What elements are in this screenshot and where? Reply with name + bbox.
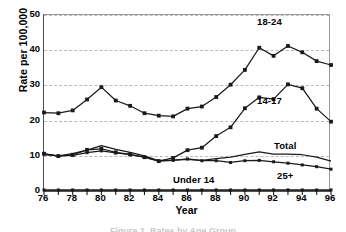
series-marker: [100, 85, 104, 89]
series-marker: [43, 153, 46, 156]
x-axis-tick-92: 92: [267, 192, 278, 203]
series-marker: [243, 106, 247, 110]
series-marker: [229, 188, 232, 191]
series-marker: [243, 188, 246, 191]
series-marker: [301, 163, 304, 166]
series-label-18-24: 18-24: [257, 16, 282, 27]
x-axis-tick-94: 94: [296, 192, 307, 203]
series-marker: [214, 95, 218, 99]
series-marker: [86, 151, 89, 154]
series-marker: [229, 161, 232, 164]
series-marker: [200, 188, 203, 191]
series-marker: [200, 105, 204, 109]
series-label-total: Total: [274, 140, 297, 151]
series-marker: [272, 54, 276, 58]
series-marker: [57, 188, 60, 191]
series-line: [44, 46, 331, 116]
series-canvas: [44, 15, 331, 191]
series-marker: [300, 50, 304, 54]
series-marker: [172, 188, 175, 191]
series-marker: [330, 188, 333, 191]
series-marker: [71, 154, 74, 157]
chart-figure: Rate per 100,000 01020304050 76788082848…: [0, 0, 346, 232]
y-axis-tick-0: 0: [18, 185, 40, 195]
series-marker: [200, 146, 204, 150]
series-marker: [143, 188, 146, 191]
series-marker: [300, 86, 304, 90]
y-axis-tick-50: 50: [18, 9, 40, 19]
y-axis-tick-labels: 01020304050: [16, 0, 40, 232]
series-under-14: [43, 188, 333, 191]
series-marker: [315, 165, 318, 168]
series-marker: [229, 83, 233, 87]
series-marker: [86, 188, 89, 191]
series-marker: [315, 59, 319, 63]
x-axis-tick-88: 88: [210, 192, 221, 203]
series-label-14-17: 14-17: [257, 95, 282, 106]
x-axis-tick-86: 86: [181, 192, 192, 203]
series-label-25-plus: 25+: [277, 170, 293, 181]
x-axis-tick-80: 80: [95, 192, 106, 203]
series-marker: [85, 98, 89, 102]
series-marker: [286, 188, 289, 191]
series-marker: [186, 148, 190, 152]
series-marker: [143, 156, 146, 159]
series-marker: [272, 160, 275, 163]
series-label-under-14: Under 14: [173, 174, 214, 185]
series-marker: [157, 114, 161, 118]
y-axis-tick-30: 30: [18, 79, 40, 89]
series-marker: [71, 108, 75, 112]
series-marker: [286, 162, 289, 165]
series-marker: [128, 104, 132, 108]
series-marker: [171, 114, 175, 118]
series-marker: [157, 160, 160, 163]
figure-caption: Figure 1. Rates by Age Group: [0, 226, 346, 232]
series-marker: [157, 188, 160, 191]
x-axis-tick-96: 96: [325, 192, 336, 203]
series-marker: [215, 188, 218, 191]
series-25: [43, 149, 333, 170]
y-axis-tick-20: 20: [18, 115, 40, 125]
y-axis-tick-10: 10: [18, 150, 40, 160]
x-axis-tick-78: 78: [66, 192, 77, 203]
x-axis-tick-84: 84: [153, 192, 164, 203]
series-marker: [200, 159, 203, 162]
series-marker: [329, 120, 333, 124]
y-axis-tick-40: 40: [18, 44, 40, 54]
series-marker: [215, 159, 218, 162]
series-marker: [186, 157, 189, 160]
plot-area: [43, 14, 330, 190]
x-axis-title: Year: [43, 204, 330, 216]
series-marker: [258, 188, 261, 191]
x-axis-tick-76: 76: [38, 192, 49, 203]
series-marker: [56, 111, 60, 115]
series-18-24: [42, 44, 333, 118]
series-marker: [315, 188, 318, 191]
series-marker: [186, 188, 189, 191]
series-marker: [315, 107, 319, 111]
series-marker: [272, 188, 275, 191]
x-axis-tick-82: 82: [124, 192, 135, 203]
series-marker: [286, 82, 290, 86]
series-marker: [243, 68, 247, 72]
series-marker: [258, 159, 261, 162]
series-marker: [257, 46, 261, 50]
series-marker: [143, 111, 147, 115]
series-marker: [100, 188, 103, 191]
series-marker: [172, 159, 175, 162]
series-marker: [57, 154, 60, 157]
series-marker: [114, 99, 118, 103]
series-marker: [100, 149, 103, 152]
x-axis-tick-90: 90: [239, 192, 250, 203]
series-marker: [329, 63, 333, 67]
series-marker: [129, 153, 132, 156]
series-marker: [286, 44, 290, 48]
series-marker: [71, 188, 74, 191]
series-marker: [214, 134, 218, 138]
series-marker: [114, 188, 117, 191]
series-marker: [301, 188, 304, 191]
series-marker: [330, 168, 333, 171]
series-marker: [114, 151, 117, 154]
series-marker: [129, 188, 132, 191]
series-marker: [229, 125, 233, 129]
